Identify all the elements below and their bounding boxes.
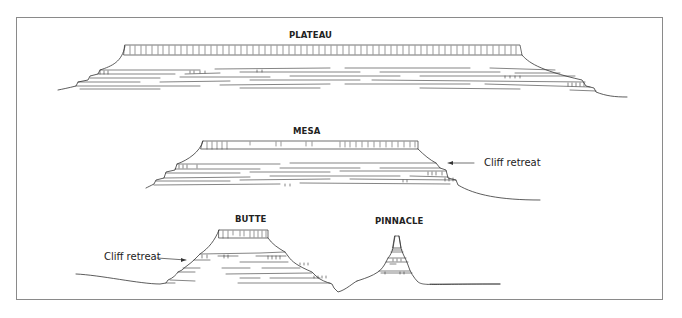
plateau-title: PLATEAU — [289, 30, 332, 40]
pinnacle-title: PINNACLE — [375, 216, 423, 226]
mesa-title: MESA — [293, 126, 320, 136]
mesa-cliff-retreat-label: Cliff retreat — [484, 157, 541, 168]
pinnacle-drawing — [357, 236, 500, 285]
butte-cliff-retreat-label: Cliff retreat — [104, 251, 161, 262]
butte-title: BUTTE — [235, 214, 266, 224]
plateau-drawing — [58, 45, 627, 97]
landform-illustration — [0, 0, 682, 318]
mesa-drawing — [146, 141, 540, 200]
